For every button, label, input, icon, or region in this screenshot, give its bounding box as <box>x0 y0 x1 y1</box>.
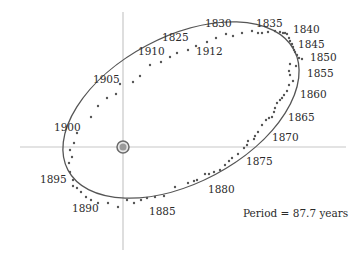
observation-point <box>241 32 243 34</box>
year-label: 1890 <box>72 202 99 214</box>
observation-point <box>73 142 75 144</box>
observation-point <box>90 199 92 201</box>
observation-point <box>267 31 269 33</box>
observation-point <box>187 182 189 184</box>
observation-point <box>296 54 298 56</box>
year-label: 1875 <box>246 155 273 167</box>
year-label: 1905 <box>93 73 120 85</box>
observation-point <box>149 64 151 66</box>
observation-point <box>69 171 71 173</box>
observation-point <box>169 56 171 58</box>
observation-point <box>292 80 294 82</box>
year-label: 1885 <box>149 205 176 217</box>
observation-point <box>271 116 273 118</box>
observation-point <box>219 169 221 171</box>
observation-point <box>85 196 87 198</box>
observation-point <box>174 186 176 188</box>
observation-point <box>176 52 178 54</box>
year-label: 1855 <box>307 67 334 79</box>
observation-point <box>273 111 275 113</box>
observation-point <box>90 116 92 118</box>
year-label: 1880 <box>208 183 235 195</box>
observation-point <box>294 51 296 53</box>
observation-point <box>261 124 263 126</box>
year-label: 1912 <box>196 45 223 57</box>
observation-point <box>225 33 227 35</box>
observation-point <box>279 31 281 33</box>
observation-point <box>289 63 291 65</box>
observation-point <box>133 202 135 204</box>
observation-point <box>247 140 249 142</box>
observation-point <box>139 75 141 77</box>
observation-point <box>254 135 256 137</box>
observation-point <box>289 40 291 42</box>
observation-point <box>295 65 297 67</box>
observation-point <box>281 97 283 99</box>
observation-point <box>286 33 288 35</box>
observation-point <box>204 173 206 175</box>
observation-point <box>292 46 294 48</box>
observation-point <box>132 81 134 83</box>
observation-point <box>126 199 128 201</box>
year-label: 1840 <box>293 23 320 35</box>
period-caption: Period = 87.7 years <box>243 207 348 219</box>
observation-point <box>72 179 74 181</box>
primary-star <box>117 141 129 153</box>
observation-point <box>72 185 74 187</box>
observation-point <box>193 180 195 182</box>
observation-point <box>208 173 210 175</box>
observation-point <box>251 30 253 32</box>
observation-point <box>274 107 276 109</box>
observation-point <box>257 32 259 34</box>
observation-point <box>215 37 217 39</box>
star-core <box>120 144 127 151</box>
observation-point <box>298 57 300 59</box>
observation-point <box>80 191 82 193</box>
year-label: 1860 <box>300 88 327 100</box>
observation-point <box>115 93 117 95</box>
year-label: 1850 <box>310 51 337 63</box>
year-label: 1900 <box>54 121 81 133</box>
orbit-plot: 1830183518401845185018551860186518701875… <box>0 0 362 257</box>
observation-point <box>68 162 70 164</box>
observation-point <box>261 32 263 34</box>
year-label: 1910 <box>138 45 165 57</box>
observation-point <box>154 196 156 198</box>
observation-point <box>257 131 259 133</box>
observation-point <box>289 74 291 76</box>
observation-point <box>291 43 293 45</box>
observation-point <box>206 41 208 43</box>
orbit-diagram: 1830183518401845185018551860186518701875… <box>0 0 362 257</box>
observation-point <box>107 202 109 204</box>
observation-point <box>146 197 148 199</box>
year-label: 1825 <box>162 31 189 43</box>
observation-point <box>243 147 245 149</box>
observation-point <box>97 105 99 107</box>
observation-point <box>231 157 233 159</box>
observation-point <box>69 149 71 151</box>
observation-point <box>106 97 108 99</box>
observation-point <box>196 179 198 181</box>
observation-point <box>246 144 248 146</box>
year-label: 1835 <box>256 17 283 29</box>
year-label: 1895 <box>40 173 67 185</box>
observation-point <box>274 30 276 32</box>
observation-point <box>163 195 165 197</box>
year-label: 1845 <box>298 38 325 50</box>
observation-points <box>68 30 303 208</box>
observation-point <box>301 58 303 60</box>
observation-point <box>187 49 189 51</box>
observation-point <box>232 35 234 37</box>
observation-point <box>279 99 281 101</box>
year-label: 1865 <box>288 111 315 123</box>
observation-point <box>160 61 162 63</box>
observation-point <box>283 94 285 96</box>
observation-point <box>228 160 230 162</box>
observation-point <box>224 164 226 166</box>
observation-point <box>288 70 290 72</box>
observation-point <box>288 84 290 86</box>
observation-point <box>71 156 73 158</box>
year-label: 1830 <box>205 17 232 29</box>
observation-point <box>140 199 142 201</box>
observation-point <box>276 102 278 104</box>
